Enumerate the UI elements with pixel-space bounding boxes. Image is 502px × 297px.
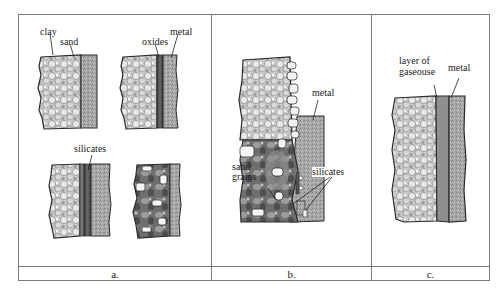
label-silicates-b: silicates bbox=[312, 167, 344, 177]
panel-a-reacted-block bbox=[133, 164, 181, 238]
label-layer-line1: layer of bbox=[399, 56, 430, 66]
panel-a-oxides-block bbox=[120, 34, 178, 129]
label-silicates-a: silicates bbox=[74, 144, 106, 154]
label-metal-c: metal bbox=[448, 63, 470, 73]
panel-a-sand-metal-block bbox=[38, 34, 97, 129]
label-metal-a: metal bbox=[170, 27, 192, 37]
label-metal-b: metal bbox=[312, 88, 334, 98]
panel-a-silicates-block bbox=[49, 155, 111, 238]
label-sand-grains-line2: grains bbox=[232, 172, 256, 182]
panel-b-block bbox=[239, 57, 332, 222]
label-oxides: oxides bbox=[142, 37, 168, 47]
label-clay: clay bbox=[40, 27, 57, 37]
label-sand: sand bbox=[60, 37, 78, 47]
panel-c-block bbox=[392, 78, 466, 222]
label-layer-line2: gaseouse bbox=[399, 67, 435, 77]
